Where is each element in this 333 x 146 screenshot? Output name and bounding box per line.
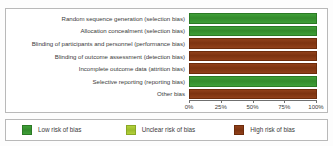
legend-item: High risk of bias (234, 120, 327, 140)
x-axis-tick (253, 100, 254, 103)
bias-bar-low (189, 26, 317, 37)
bias-row: Incomplete outcome data (attrition bias) (6, 62, 327, 75)
legend: Low risk of biasUnclear risk of biasHigh… (5, 119, 328, 141)
bias-bar-high (189, 89, 317, 100)
bias-bar-track (189, 13, 317, 24)
bias-row-label: Blinding of outcome assessment (detectio… (6, 53, 189, 60)
bias-row-label: Other bias (6, 90, 189, 97)
bias-bar-track (189, 76, 317, 87)
bias-row: Random sequence generation (selection bi… (6, 12, 327, 25)
bias-row-label: Blinding of participants and personnel (… (6, 40, 189, 47)
bias-bar-track (189, 63, 317, 74)
bias-row-label: Incomplete outcome data (attrition bias) (6, 65, 189, 72)
x-axis-tick-label: 50% (246, 104, 258, 111)
x-axis-tick-label: 100% (308, 104, 323, 111)
bias-bar-track (189, 26, 317, 37)
bias-bar-high (189, 63, 317, 74)
bias-bar-track (189, 38, 317, 49)
x-axis-tick-label: 0% (185, 104, 194, 111)
bias-bar-high (189, 38, 317, 49)
x-axis-tick (316, 100, 317, 103)
bias-bar-low (189, 13, 317, 24)
legend-swatch-high (234, 125, 244, 135)
legend-item-label: High risk of bias (250, 126, 295, 134)
legend-item-label: Low risk of bias (38, 126, 81, 134)
x-axis: 0%25%50%75%100% (189, 100, 317, 114)
x-axis-tick-label: 75% (278, 104, 290, 111)
x-axis-tick (284, 100, 285, 103)
legend-swatch-unclear (126, 125, 136, 135)
bias-row-label: Random sequence generation (selection bi… (6, 15, 189, 22)
bias-row-label: Allocation concealment (selection bias) (6, 27, 189, 34)
bias-bar-low (189, 76, 317, 87)
bias-row: Other bias (6, 88, 327, 101)
bias-bar-track (189, 51, 317, 62)
x-axis-tick (189, 100, 190, 103)
risk-of-bias-graph: Random sequence generation (selection bi… (0, 0, 333, 146)
bias-bar-high (189, 51, 317, 62)
bias-row: Blinding of participants and personnel (… (6, 37, 327, 50)
bias-row: Selective reporting (reporting bias) (6, 75, 327, 88)
bias-row: Allocation concealment (selection bias) (6, 25, 327, 38)
legend-item-label: Unclear risk of bias (142, 126, 196, 134)
legend-swatch-low (22, 125, 32, 135)
x-axis-tick-label: 25% (215, 104, 227, 111)
plot-panel: Random sequence generation (selection bi… (5, 8, 328, 113)
legend-item: Unclear risk of bias (126, 120, 229, 140)
x-axis-tick (221, 100, 222, 103)
bias-bar-track (189, 89, 317, 100)
bias-row-label: Selective reporting (reporting bias) (6, 78, 189, 85)
bias-row: Blinding of outcome assessment (detectio… (6, 50, 327, 63)
legend-item: Low risk of bias (22, 120, 120, 140)
bias-rows: Random sequence generation (selection bi… (6, 12, 327, 100)
